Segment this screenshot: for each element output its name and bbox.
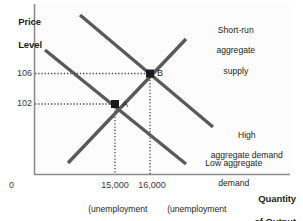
y-axis-title: Price Level bbox=[8, 5, 42, 61]
low-ad-label-line2: demand bbox=[218, 178, 249, 188]
short-run-aggregate-supply-label: Short-run aggregate supply bbox=[188, 15, 274, 86]
sras-label-line2: aggregate bbox=[216, 45, 255, 55]
y-axis-title-line2: Level bbox=[18, 39, 42, 50]
equilibrium-point-a-marker bbox=[111, 100, 119, 108]
equilibrium-point-b-marker bbox=[146, 70, 154, 78]
aggregate-supply-demand-figure: Price Level 106 102 0 15,000 16,000 (une… bbox=[0, 0, 303, 221]
origin-label: 0 bbox=[9, 180, 14, 191]
equilibrium-point-b-label: B bbox=[157, 68, 163, 79]
x-axis-title-line2: of Output bbox=[254, 216, 296, 221]
x-tick-label-16000: 16,000 bbox=[122, 180, 182, 191]
low-aggregate-demand-label: Low aggregate demand bbox=[180, 148, 278, 199]
sras-label-line3: supply bbox=[223, 66, 248, 76]
equilibrium-point-a-label: A bbox=[122, 99, 128, 110]
low-ad-label-line1: Low aggregate bbox=[205, 158, 262, 168]
sras-label-line1: Short-run bbox=[218, 25, 254, 35]
y-tick-label-102: 102 bbox=[2, 98, 32, 109]
y-axis-title-line1: Price bbox=[18, 16, 41, 27]
high-ad-label-line1: High bbox=[238, 130, 256, 140]
y-tick-label-106: 106 bbox=[2, 68, 32, 79]
